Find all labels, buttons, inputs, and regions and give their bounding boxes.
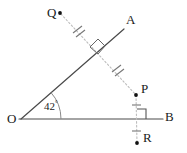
angle-value: 42 (44, 100, 55, 112)
geometry-figure: Q A P B R O 42° (0, 0, 187, 153)
right-angle-mark-ob (137, 109, 146, 119)
angle-measure-label: 42° (44, 100, 58, 112)
point-R (135, 141, 139, 145)
point-P (134, 93, 138, 97)
segment-PR (136, 95, 137, 143)
ray-OA (21, 29, 124, 119)
label-R: R (143, 131, 152, 144)
point-Q (58, 11, 62, 15)
label-B: B (165, 110, 174, 123)
label-A: A (126, 13, 135, 26)
segment-QP (61, 14, 136, 95)
label-P: P (141, 82, 148, 95)
geometry-canvas (0, 0, 187, 153)
label-O: O (7, 112, 16, 125)
double-tick-mp (112, 65, 124, 76)
degree-symbol: ° (55, 99, 58, 107)
double-tick-qm (73, 26, 85, 37)
label-Q: Q (47, 6, 56, 19)
